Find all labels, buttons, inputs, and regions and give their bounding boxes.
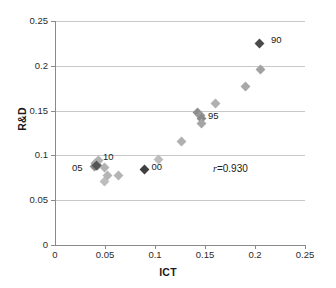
gridline-y-0.05 xyxy=(55,200,305,201)
x-tick-mark-0.2 xyxy=(255,245,256,249)
y-tick-mark-0.15 xyxy=(51,111,55,112)
y-tick-label-0: 0 xyxy=(43,240,48,250)
x-tick-mark-0.25 xyxy=(305,245,306,249)
point-label-00: 00 xyxy=(152,162,163,172)
y-tick-label-0.25: 0.25 xyxy=(30,16,49,26)
y-tick-mark-0.25 xyxy=(51,21,55,22)
scatter-chart: 9095100500 00.050.10.150.20.25 00.050.10… xyxy=(0,0,336,288)
y-tick-label-0.15: 0.15 xyxy=(30,106,49,116)
point-label-10: 10 xyxy=(103,152,114,162)
data-point xyxy=(240,81,250,91)
x-tick-label-0.25: 0.25 xyxy=(285,249,325,260)
gridline-y-0.1 xyxy=(55,155,305,156)
plot-area: 9095100500 xyxy=(55,21,305,245)
x-tick-label-0.2: 0.2 xyxy=(235,249,275,260)
gridline-y-0.25 xyxy=(55,21,305,22)
y-tick-0.25: 0.25 xyxy=(0,16,48,26)
x-tick-label-0: 0 xyxy=(35,249,75,260)
y-tick-mark-0.05 xyxy=(51,200,55,201)
y-axis-title: R&D xyxy=(16,89,28,149)
x-tick-mark-0.15 xyxy=(205,245,206,249)
data-point xyxy=(139,165,149,175)
data-point xyxy=(210,98,220,108)
y-tick-0.1: 0.1 xyxy=(0,150,48,160)
x-tick-mark-0.05 xyxy=(105,245,106,249)
data-point xyxy=(197,119,207,129)
y-tick-mark-0.2 xyxy=(51,66,55,67)
y-tick-0.05: 0.05 xyxy=(0,195,48,205)
point-label-05: 05 xyxy=(72,163,83,173)
x-tick-mark-0.1 xyxy=(155,245,156,249)
x-tick-label-0.05: 0.05 xyxy=(85,249,125,260)
y-tick-label-0.05: 0.05 xyxy=(30,195,49,205)
y-tick-0.2: 0.2 xyxy=(0,61,48,71)
y-tick-mark-0.1 xyxy=(51,155,55,156)
y-tick-label-0.2: 0.2 xyxy=(35,61,48,71)
y-tick-label-0.1: 0.1 xyxy=(35,150,48,160)
point-label-95: 95 xyxy=(208,111,219,121)
y-tick-mark-0 xyxy=(51,245,55,246)
correlation-value: 0.930 xyxy=(223,163,248,174)
gridline-y-0.2 xyxy=(55,66,305,67)
y-axis-line xyxy=(55,21,56,246)
point-label-90: 90 xyxy=(271,35,282,45)
x-axis-title: ICT xyxy=(0,266,336,278)
x-axis-line xyxy=(55,245,306,246)
gridline-y-0.15 xyxy=(55,111,305,112)
data-point xyxy=(255,38,265,48)
x-tick-label-0.15: 0.15 xyxy=(185,249,225,260)
data-point xyxy=(113,171,123,181)
data-point xyxy=(176,136,186,146)
x-tick-label-0.1: 0.1 xyxy=(135,249,175,260)
y-tick-0: 0 xyxy=(0,240,48,250)
correlation-annotation: r=0.930 xyxy=(213,163,248,174)
